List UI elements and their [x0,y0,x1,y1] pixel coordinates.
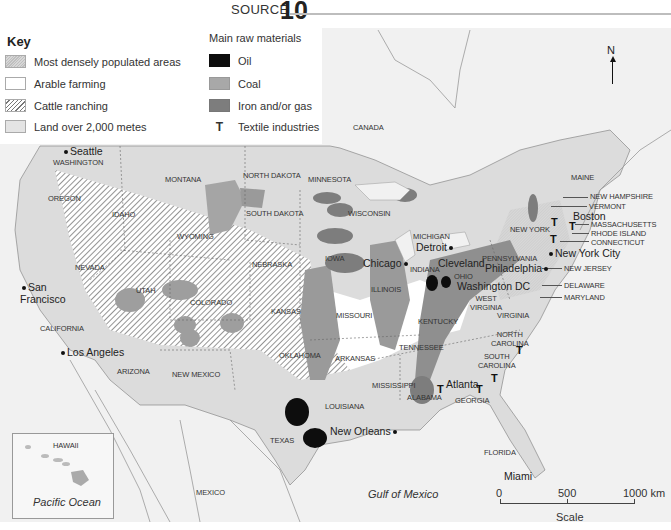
state-missouri: MISSOURI [336,311,372,320]
city-miami: Miami [504,470,532,482]
state-arizona: ARIZONA [117,367,150,376]
state-tennessee: TENNESSEE [399,343,444,352]
hawaii-inset: HAWAII Pacific Ocean [12,433,114,519]
state-new-mexico: NEW MEXICO [172,370,220,379]
state-delaware: DELAWARE [564,281,605,290]
key-item-iron: Iron and/or gas [209,99,312,112]
cattle-swatch [5,99,26,112]
raw-materials-title: Main raw materials [209,32,301,44]
key-item-textile: T Textile industries [209,120,319,134]
key-label: Land over 2,000 metes [34,121,147,133]
scale-tick-1000: 1000 km [623,487,665,499]
city-los-angeles: Los Angeles [59,346,124,358]
textile-marker: T [516,344,523,356]
key-item-oil: Oil [209,54,251,67]
pointer-line [563,197,588,198]
city-detroit: Detroit [416,241,455,253]
state-nebraska: NEBRASKA [252,260,292,269]
state-new-york: NEW YORK [510,225,550,234]
key-label: Iron and/or gas [238,100,312,112]
city-dot-icon [61,351,65,355]
state-oregon: OREGON [48,194,81,203]
state-washington: WASHINGTON [53,158,103,167]
pointer-line [551,206,587,207]
scale-tick-0: 0 [496,487,502,499]
pointer-line [540,297,562,298]
state-colorado: COLORADO [190,298,232,307]
city-cleveland: Cleveland [438,257,485,269]
textile-marker: T [551,216,558,228]
state-idaho: IDAHO [112,210,135,219]
header-rule [290,13,671,15]
oil-swatch [209,54,230,67]
city-dot-icon [544,267,548,271]
city-san-francisco: San Francisco [20,281,66,305]
state-kentucky: KENTUCKY [418,317,458,326]
textile-marker: T [569,220,576,232]
state-new-jersey: NEW JERSEY [564,264,612,273]
state-west-virginia: WEST VIRGINIA [470,294,502,312]
city-philadelphia: Philadelphia [485,262,550,274]
label-pacific-ocean: Pacific Ocean [33,496,101,508]
pointer-line [575,224,589,225]
pointer-line [560,241,589,242]
state-connecticut: CONNECTICUT [591,238,644,247]
city-new-york-city: New York City [547,247,620,259]
state-california: CALIFORNIA [40,324,84,333]
state-georgia: GEORGIA [455,396,489,405]
state-louisiana: LOUISIANA [325,402,364,411]
state-virginia: VIRGINIA [497,311,529,320]
key-label: Most densely populated areas [34,56,181,68]
state-arkansas: ARKANSAS [335,354,375,363]
scale-tick [500,499,501,504]
state-south-dakota: SOUTH DAKOTA [246,209,303,218]
city-dot-icon [64,150,68,154]
city-seattle: Seattle [62,145,103,157]
state-illinois: ILLINOIS [371,285,401,294]
city-boston: Boston [573,210,606,222]
state-maryland: MARYLAND [564,293,605,302]
compass-shaft [612,60,613,84]
city-dot-icon [393,430,397,434]
key-title: Key [7,34,31,49]
key-item-arable: Arable farming [5,77,106,90]
textile-marker: T [491,372,498,384]
label-canada: CANADA [353,123,384,132]
label-mexico: MEXICO [196,488,225,497]
pointer-line [572,233,589,234]
state-maine: MAINE [571,173,594,182]
hawaii-islands-shape [13,434,113,494]
state-nevada: NEVADA [75,263,105,272]
coal-swatch [209,77,230,90]
key-label: Textile industries [238,121,319,133]
state-montana: MONTANA [165,175,201,184]
key-item-dense-population: Most densely populated areas [5,55,181,68]
key-label: Cattle ranching [34,100,108,112]
key-item-cattle: Cattle ranching [5,99,108,112]
dense-population-swatch [5,55,26,68]
state-florida: FLORIDA [484,448,516,457]
scale-tick [634,499,635,504]
state-iowa: IOWA [325,254,344,263]
compass-north-label: N [607,44,615,56]
state-mississippi: MISSISSIPPI [372,381,416,390]
scale-tick [567,499,568,504]
textile-symbol: T [209,120,230,134]
key-item-coal: Coal [209,77,261,90]
scale-tick-500: 500 [558,487,576,499]
city-new-orleans: New Orleans [330,425,399,437]
scale-label: Scale [556,511,584,523]
state-rhode-island: RHODE ISLAND [591,229,646,238]
key-label: Coal [238,78,261,90]
textile-marker: T [550,233,557,245]
map-key: Key Most densely populated areas Arable … [0,28,322,144]
city-chicago: Chicago [363,257,410,269]
arable-swatch [5,77,26,90]
compass-arrow-icon [610,56,616,62]
state-south-carolina: SOUTH CAROLINA [478,352,516,370]
city-dot-icon [449,246,453,250]
key-label: Oil [238,55,251,67]
city-washington-dc: Washington DC [457,280,530,292]
label-gulf-of-mexico: Gulf of Mexico [368,488,438,500]
textile-marker: T [437,383,444,395]
